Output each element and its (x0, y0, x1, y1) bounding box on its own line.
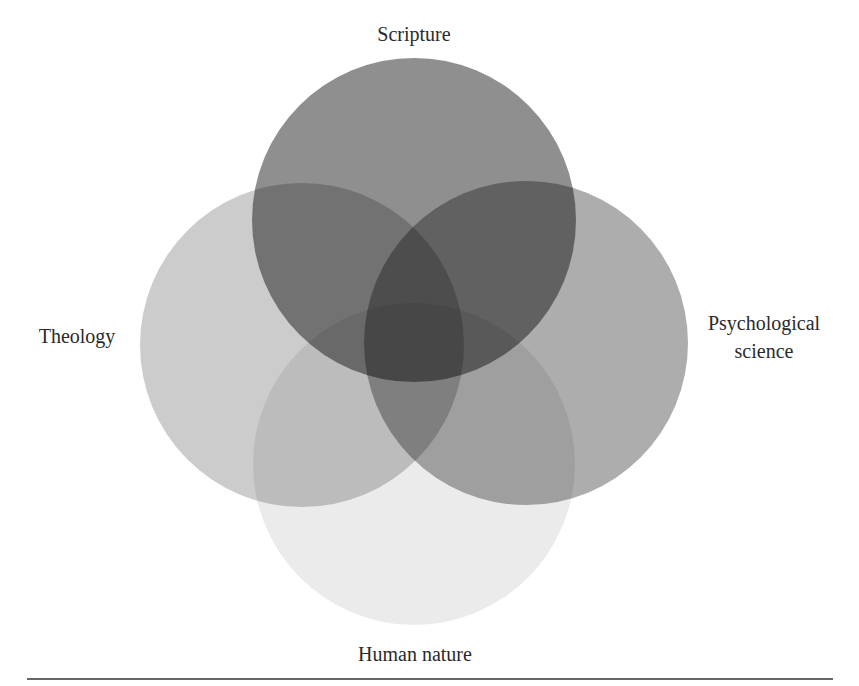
label-theology: Theology (39, 325, 116, 348)
venn-diagram: Scripture Theology Psychological science… (0, 0, 859, 686)
circle-scripture (252, 58, 576, 382)
label-human-nature: Human nature (358, 643, 472, 665)
label-psychological: Psychological (708, 312, 821, 335)
label-science: science (735, 340, 794, 362)
label-scripture: Scripture (377, 23, 450, 46)
